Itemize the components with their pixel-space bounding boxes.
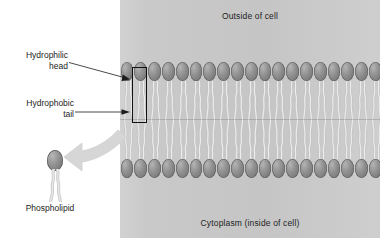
phospholipid-unit xyxy=(217,62,231,120)
phospholipid-head xyxy=(314,159,327,178)
phospholipid-unit xyxy=(230,62,244,120)
phospholipid-tails xyxy=(204,81,215,120)
phospholipid-tails xyxy=(356,120,367,159)
phospholipid-tails xyxy=(246,81,257,120)
phospholipid-unit xyxy=(175,120,189,178)
phospholipid-unit xyxy=(120,120,134,178)
phospholipid-tails xyxy=(163,120,174,159)
phospholipid-head xyxy=(328,159,341,178)
phospholipid-head xyxy=(272,159,285,178)
phospholipid-tails xyxy=(329,81,340,120)
phospholipid-unit xyxy=(299,120,313,178)
outside-of-cell-label: Outside of cell xyxy=(120,11,380,21)
phospholipid-head xyxy=(259,62,272,81)
phospholipid-head xyxy=(314,62,327,81)
phospholipid-unit xyxy=(286,62,300,120)
hydrophilic-head-label-line2: head xyxy=(6,61,68,72)
phospholipid-head xyxy=(286,62,299,81)
phospholipid-head xyxy=(355,159,368,178)
phospholipid-unit xyxy=(368,120,380,178)
phospholipid-head xyxy=(190,159,203,178)
phospholipid-unit xyxy=(258,62,272,120)
phospholipid-head xyxy=(300,159,313,178)
phospholipid-unit xyxy=(272,120,286,178)
phospholipid-unit xyxy=(189,120,203,178)
phospholipid-tails xyxy=(246,120,257,159)
phospholipid-head xyxy=(176,62,189,81)
phospholipid-head xyxy=(231,62,244,81)
phospholipid-tails xyxy=(177,81,188,120)
phospholipid-head xyxy=(176,159,189,178)
hydrophilic-head-label-line1: Hydrophilic xyxy=(6,50,68,61)
phospholipid-head xyxy=(203,62,216,81)
phospholipid-unit xyxy=(161,62,175,120)
phospholipid-tails xyxy=(204,120,215,159)
phospholipid-head xyxy=(121,159,134,178)
phospholipid-tails xyxy=(232,120,243,159)
phospholipid-head xyxy=(162,62,175,81)
phospholipid-tails xyxy=(273,81,284,120)
phospholipid-unit xyxy=(203,120,217,178)
phospholipid-head xyxy=(369,62,380,81)
phospholipid-tails xyxy=(177,120,188,159)
hydrophobic-tail-label-line2: tail xyxy=(0,109,74,120)
phospholipid-tails xyxy=(135,120,146,159)
phospholipid-unit xyxy=(341,120,355,178)
phospholipid-tails xyxy=(287,81,298,120)
phospholipid-tails xyxy=(273,120,284,159)
phospholipid-tails xyxy=(191,81,202,120)
phospholipid-tails xyxy=(122,120,133,159)
phospholipid-tails xyxy=(342,81,353,120)
hydrophilic-head-label: Hydrophilic head xyxy=(6,50,68,72)
phospholipid-head xyxy=(245,159,258,178)
phospholipid-unit xyxy=(203,62,217,120)
phospholipid-head xyxy=(328,62,341,81)
phospholipid-head xyxy=(148,159,161,178)
phospholipid-tails xyxy=(329,120,340,159)
phospholipid-tails xyxy=(356,81,367,120)
phospholipid-unit xyxy=(355,62,369,120)
phospholipid-unit xyxy=(341,62,355,120)
diagram-canvas: Outside of cell Cytoplasm (inside of cel… xyxy=(0,0,391,250)
highlighted-phospholipid-box xyxy=(132,67,147,123)
phospholipid-unit xyxy=(244,62,258,120)
phospholipid-tails xyxy=(149,120,160,159)
phospholipid-unit xyxy=(230,120,244,178)
cell-panel: Outside of cell Cytoplasm (inside of cel… xyxy=(120,0,380,238)
phospholipid-tails xyxy=(163,81,174,120)
phospholipid-label: Phospholipid xyxy=(8,203,92,214)
phospholipid-tails xyxy=(315,120,326,159)
phospholipid-head xyxy=(341,159,354,178)
phospholipid-unit xyxy=(355,120,369,178)
phospholipid-unit xyxy=(258,120,272,178)
phospholipid-unit xyxy=(299,62,313,120)
magnify-arrow xyxy=(64,130,126,171)
phospholipid-head xyxy=(162,159,175,178)
phospholipid-tails xyxy=(48,169,63,202)
phospholipid-head xyxy=(231,159,244,178)
phospholipid-unit xyxy=(272,62,286,120)
phospholipid-tails xyxy=(370,81,380,120)
phospholipid-unit xyxy=(148,62,162,120)
phospholipid-unit xyxy=(189,62,203,120)
phospholipid-unit xyxy=(368,62,380,120)
outer-leaflet xyxy=(120,62,380,120)
phospholipid-head xyxy=(300,62,313,81)
phospholipid-head xyxy=(245,62,258,81)
inner-leaflet xyxy=(120,120,380,178)
phospholipid-unit xyxy=(148,120,162,178)
phospholipid-tails xyxy=(301,81,312,120)
phospholipid-head xyxy=(217,62,230,81)
phospholipid-tails xyxy=(218,120,229,159)
phospholipid-head xyxy=(369,159,380,178)
phospholipid-unit xyxy=(175,62,189,120)
phospholipid-head xyxy=(286,159,299,178)
phospholipid-unit xyxy=(327,120,341,178)
phospholipid-head xyxy=(272,62,285,81)
phospholipid-head xyxy=(217,159,230,178)
phospholipid-tails xyxy=(191,120,202,159)
phospholipid-unit xyxy=(244,120,258,178)
phospholipid-unit xyxy=(313,62,327,120)
phospholipid-unit xyxy=(286,120,300,178)
phospholipid-unit xyxy=(161,120,175,178)
